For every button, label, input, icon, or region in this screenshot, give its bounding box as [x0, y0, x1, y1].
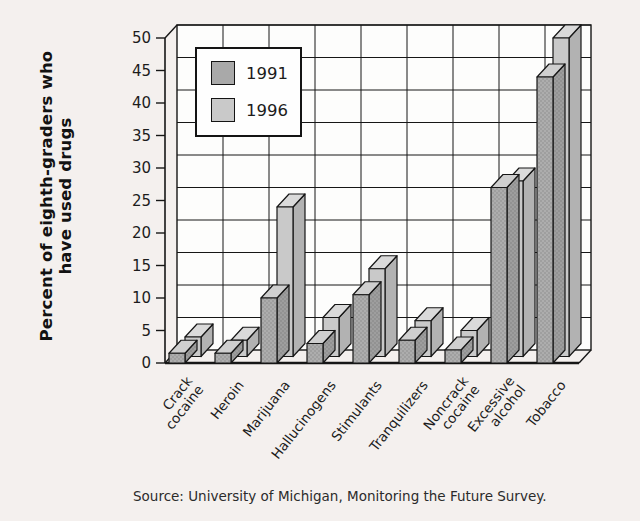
bar-1991-stimulants [353, 295, 369, 363]
legend-item-1996: 1996 [211, 98, 300, 122]
y-tick-label: 45 [132, 62, 151, 80]
y-tick-label: 25 [132, 192, 151, 210]
chart-legend: 1991 1996 [195, 47, 302, 137]
bar-1991-excessive-alcohol [491, 188, 507, 364]
source-caption: Source: University of Michigan, Monitori… [133, 488, 547, 504]
bar-1996-stimulants-side [385, 256, 397, 357]
y-tick-label: 0 [141, 354, 151, 372]
bar-1991-crack-cocaine [169, 353, 185, 363]
bottom-right-depth-edge [579, 350, 591, 363]
y-tick-label: 5 [141, 322, 151, 340]
legend-label-1996: 1996 [246, 101, 288, 120]
y-tick-label: 35 [132, 127, 151, 145]
y-tick-label: 40 [132, 94, 151, 112]
y-tick-label: 30 [132, 159, 151, 177]
bar-1991-hallucinogens [307, 344, 323, 364]
drug-use-bar-chart: 05101520253035404550CrackcocaineHeroinMa… [0, 0, 640, 521]
y-tick-label: 20 [132, 224, 151, 242]
bar-1991-marijuana [261, 298, 277, 363]
category-label-heroin: Heroin [207, 377, 247, 422]
bar-1991-excessive-alcohol-side [507, 175, 519, 364]
bar-1991-noncrack-cocaine [445, 350, 461, 363]
bar-1996-tobacco-side [569, 25, 581, 357]
bar-1991-tranquilizers [399, 340, 415, 363]
scanned-textbook-chart-page: Percent of eighth-graders who have used … [0, 0, 640, 521]
legend-item-1991: 1991 [211, 61, 300, 85]
bar-1991-heroin [215, 353, 231, 363]
bar-1991-tobacco [537, 77, 553, 363]
bar-1996-marijuana-side [293, 194, 305, 357]
y-tick-label: 15 [132, 257, 151, 275]
top-left-depth-edge [165, 25, 177, 38]
bar-1991-tobacco-side [553, 64, 565, 363]
bar-1991-stimulants-side [369, 282, 381, 363]
bar-1996-excessive-alcohol-side [523, 168, 535, 357]
legend-swatch-1996 [211, 98, 235, 122]
y-tick-label: 10 [132, 289, 151, 307]
category-label-excessive-alcohol: Excessivealcohol [464, 373, 528, 444]
legend-label-1991: 1991 [246, 64, 288, 83]
y-tick-label: 50 [132, 29, 151, 47]
category-label-crack-cocaine: Crackcocaine [151, 373, 207, 433]
category-label-tobacco: Tobacco [522, 377, 569, 430]
legend-swatch-1991 [211, 61, 235, 85]
